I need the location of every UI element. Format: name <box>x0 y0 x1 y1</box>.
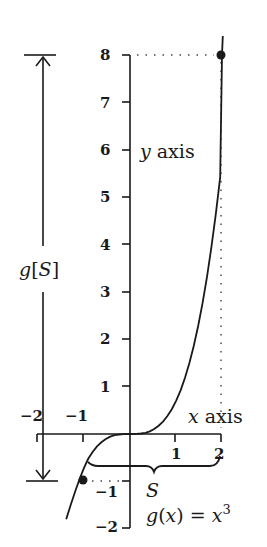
x-tick-label: −1 <box>65 407 88 425</box>
function-label: g(x) = x3 <box>146 502 231 526</box>
y-tick-label: 3 <box>100 283 110 301</box>
x-axis-label: x axis <box>188 405 243 427</box>
point-2-8 <box>217 51 226 60</box>
x-axis <box>37 434 221 442</box>
y-axis-label: y axis <box>139 140 195 162</box>
point-neg1-neg1 <box>79 476 88 485</box>
y-tick-label: −2 <box>95 518 118 536</box>
y-tick-labels: 8 7 6 5 4 3 2 1 −1 −2 <box>95 46 118 536</box>
cubic-curve <box>66 36 223 519</box>
y-tick-label: 7 <box>100 94 110 112</box>
y-tick-label: 6 <box>100 141 110 159</box>
x-tick-label: −2 <box>20 407 43 425</box>
image-set-label: g[S] <box>19 258 59 280</box>
y-tick-label: 8 <box>100 46 110 64</box>
y-tick-label: 1 <box>100 378 110 396</box>
domain-set-brace <box>88 456 220 472</box>
cubic-function-diagram: g[S] 8 7 6 5 4 3 2 1 −1 −2 y axis <box>0 0 267 547</box>
y-tick-label: −1 <box>95 483 118 501</box>
domain-set-label: S <box>146 479 159 501</box>
y-tick-label: 5 <box>100 188 110 206</box>
y-tick-label: 4 <box>100 236 110 254</box>
y-tick-label: 2 <box>100 330 110 348</box>
function-exponent: 3 <box>222 502 230 517</box>
x-tick-label: 1 <box>171 445 181 463</box>
y-axis <box>122 55 130 528</box>
